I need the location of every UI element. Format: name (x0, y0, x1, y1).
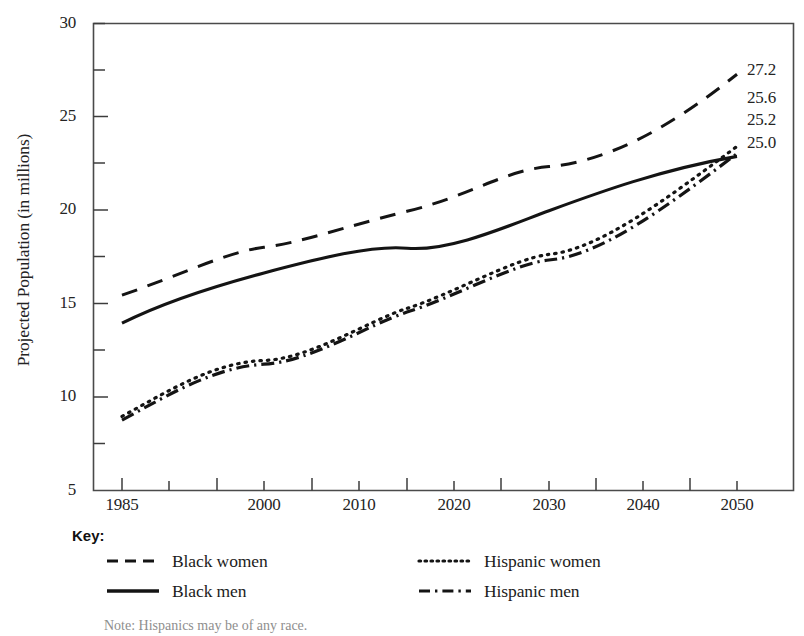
x-tick-label-2020: 2020 (424, 495, 484, 515)
endpoint-label-hispanic-men: 25.2 (747, 110, 776, 130)
x-tick-label-2010: 2010 (329, 495, 389, 515)
plot-frame (94, 24, 794, 491)
x-tick-label-2000: 2000 (234, 495, 294, 515)
endpoint-label-black-women: 27.2 (747, 60, 776, 80)
legend-item-hispanic-men: Hispanic men (417, 580, 580, 602)
legend-label-hispanic-men: Hispanic men (484, 580, 580, 602)
x-tick-label-2040: 2040 (613, 495, 673, 515)
y-tick-label-15: 15 (36, 293, 76, 313)
y-tick-label-30: 30 (36, 13, 76, 33)
legend-rows: Black women Hispanic women (105, 550, 792, 610)
axis-frame-rect (94, 24, 794, 491)
y-tick-label-20: 20 (36, 199, 76, 219)
legend-label-hispanic-women: Hispanic women (484, 550, 601, 572)
plot-area (0, 0, 804, 520)
legend-item-black-men: Black men (105, 580, 417, 602)
y-tick-label-25: 25 (36, 106, 76, 126)
y-tick-label-5: 5 (36, 480, 76, 500)
dotted-line-icon (417, 554, 473, 568)
legend-item-hispanic-women: Hispanic women (417, 550, 601, 572)
x-tick-label-2050: 2050 (707, 495, 767, 515)
y-axis-ticks (94, 24, 109, 444)
legend-label-black-men: Black men (172, 580, 246, 602)
endpoint-label-hispanic-women: 25.6 (747, 88, 776, 108)
solid-line-icon (105, 584, 161, 598)
dash-dot-line-icon (417, 584, 473, 598)
dashed-line-icon (105, 554, 161, 568)
series-line-black-women (122, 74, 737, 295)
legend-label-black-women: Black women (172, 550, 268, 572)
legend: Key: Black women (72, 526, 792, 604)
legend-title: Key: (72, 526, 792, 545)
legend-row: Black women Hispanic women (105, 550, 792, 580)
x-axis-ticks (122, 478, 737, 491)
footnote: Note: Hispanics may be of any race. (104, 617, 307, 635)
x-tick-label-2030: 2030 (519, 495, 579, 515)
x-tick-label-1985: 1985 (92, 495, 152, 515)
series-line-black-men (122, 156, 737, 323)
y-tick-label-10: 10 (36, 386, 76, 406)
projected-population-line-chart: Projected Population (in millions) (0, 0, 804, 636)
legend-row: Black men Hispanic men (105, 580, 792, 610)
legend-item-black-women: Black women (105, 550, 417, 572)
endpoint-label-black-men: 25.0 (747, 133, 776, 153)
